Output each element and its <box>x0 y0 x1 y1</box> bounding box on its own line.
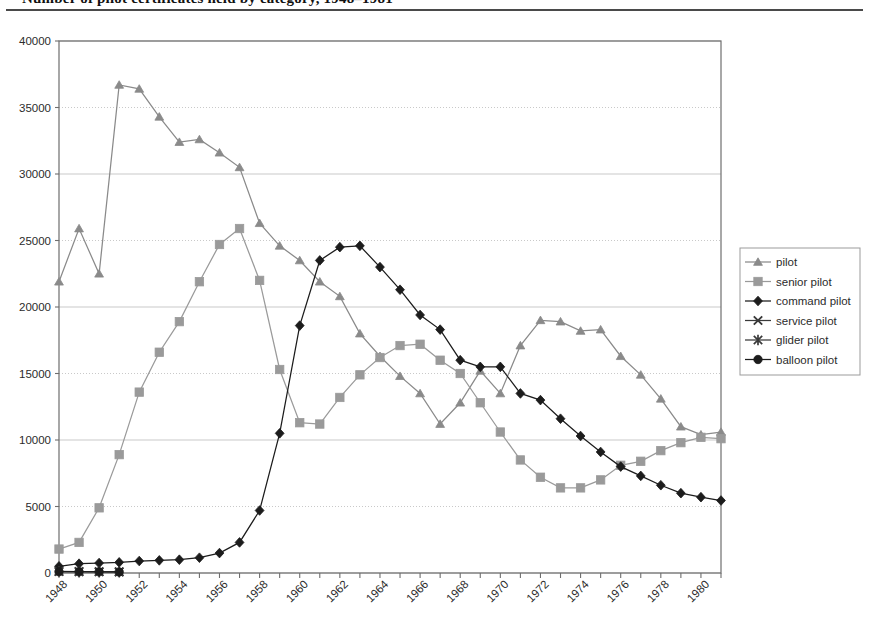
series-senior-pilot <box>55 224 725 553</box>
series-line <box>59 85 721 435</box>
legend-item-balloon-pilot[interactable]: balloon pilot <box>745 354 838 366</box>
chart-legend: pilotsenior pilotcommand pilotservice pi… <box>740 248 860 375</box>
legend-label: pilot <box>776 256 798 268</box>
data-point-triangle <box>55 278 64 286</box>
data-point-square <box>296 419 304 427</box>
data-point-square <box>456 369 464 377</box>
data-point-square <box>476 399 484 407</box>
data-point-square <box>75 538 83 546</box>
data-point-square <box>536 473 544 481</box>
line-chart: 0500010000150002000025000300003500040000… <box>0 0 869 629</box>
data-point-square <box>376 353 384 361</box>
data-point-triangle <box>335 292 344 300</box>
data-point-square <box>336 393 344 401</box>
data-point-triangle <box>115 81 124 89</box>
data-point-diamond <box>295 321 304 331</box>
data-point-diamond <box>456 355 465 365</box>
y-tick-label: 25000 <box>19 235 51 247</box>
data-point-square <box>255 276 263 284</box>
data-point-circle <box>754 355 762 363</box>
data-point-diamond <box>175 555 184 565</box>
data-point-diamond <box>335 242 344 252</box>
data-point-square <box>416 340 424 348</box>
y-tick-label: 20000 <box>19 301 51 313</box>
data-point-diamond <box>717 496 726 506</box>
gridlines <box>59 41 721 573</box>
data-point-square <box>754 277 762 285</box>
legend-label: balloon pilot <box>776 354 838 366</box>
data-point-diamond <box>195 553 204 563</box>
data-point-diamond <box>235 538 244 548</box>
data-point-circle <box>75 568 83 576</box>
data-point-square <box>235 224 243 232</box>
data-point-diamond <box>135 556 144 566</box>
x-tick-label: 1976 <box>605 578 632 605</box>
data-point-square <box>697 433 705 441</box>
data-point-square <box>95 504 103 512</box>
data-point-circle <box>115 568 123 576</box>
y-tick-label: 40000 <box>19 35 51 47</box>
legend-item-senior-pilot[interactable]: senior pilot <box>745 276 832 288</box>
x-tick-label: 1970 <box>484 578 511 605</box>
data-point-square <box>496 428 504 436</box>
data-point-square <box>677 438 685 446</box>
y-tick-label: 15000 <box>19 368 51 380</box>
data-point-square <box>356 371 364 379</box>
data-point-circle <box>95 568 103 576</box>
data-point-square <box>155 348 163 356</box>
series-pilot <box>55 81 726 438</box>
x-tick-label: 1960 <box>284 578 311 605</box>
legend-item-glider-pilot[interactable]: glider pilot <box>745 334 829 346</box>
x-tick-label: 1972 <box>524 578 551 605</box>
data-point-triangle <box>456 399 465 407</box>
data-point-diamond <box>676 488 685 498</box>
data-point-square <box>175 317 183 325</box>
y-tick-label: 30000 <box>19 168 51 180</box>
data-point-circle <box>55 567 63 575</box>
x-tick-label: 1948 <box>43 578 70 605</box>
data-point-diamond <box>697 492 706 502</box>
data-point-square <box>55 545 63 553</box>
data-point-diamond <box>115 558 124 568</box>
data-point-triangle <box>355 329 364 337</box>
x-tick-label: 1978 <box>645 578 672 605</box>
x-tick-label: 1962 <box>324 578 351 605</box>
series-line <box>59 229 721 550</box>
data-point-diamond <box>656 480 665 490</box>
y-tick-label: 0 <box>45 567 51 579</box>
data-point-diamond <box>95 558 104 568</box>
data-point-diamond <box>315 256 324 266</box>
data-point-diamond <box>255 506 264 516</box>
data-point-square <box>436 356 444 364</box>
data-point-triangle <box>75 224 84 232</box>
legend-label: command pilot <box>776 295 852 307</box>
data-point-triangle <box>255 219 264 227</box>
data-point-square <box>717 434 725 442</box>
data-point-diamond <box>275 429 284 439</box>
figure-container: Number of pilot certificates held by cat… <box>0 0 869 629</box>
x-tick-label: 1974 <box>564 578 591 605</box>
data-point-square <box>316 420 324 428</box>
x-tick-label: 1956 <box>203 578 230 605</box>
x-tick-label: 1954 <box>163 578 190 605</box>
data-point-square <box>115 450 123 458</box>
data-point-diamond <box>476 362 485 372</box>
legend-label: glider pilot <box>776 334 829 346</box>
data-point-diamond <box>436 325 445 335</box>
data-point-square <box>576 484 584 492</box>
x-tick-label: 1980 <box>685 578 712 605</box>
series-line <box>59 246 721 567</box>
data-point-square <box>657 446 665 454</box>
data-point-diamond <box>596 447 605 457</box>
data-point-square <box>195 278 203 286</box>
x-tick-label: 1958 <box>243 578 270 605</box>
data-point-triangle <box>235 163 244 171</box>
data-point-square <box>396 341 404 349</box>
data-point-square <box>275 365 283 373</box>
x-tick-label: 1950 <box>83 578 110 605</box>
y-tick-label: 10000 <box>19 434 51 446</box>
data-point-triangle <box>676 423 685 431</box>
data-point-triangle <box>295 256 304 264</box>
data-point-square <box>215 240 223 248</box>
data-point-square <box>596 476 604 484</box>
